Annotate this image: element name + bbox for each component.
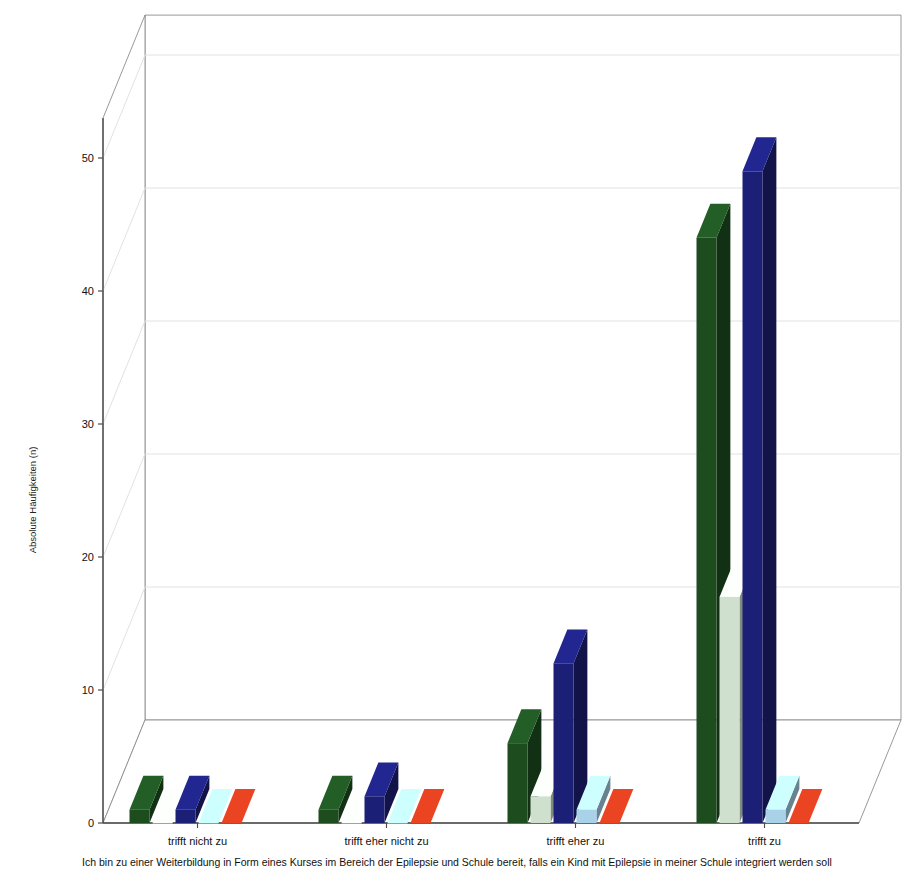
chart-bar-front: [789, 823, 809, 824]
chart-bar-front: [508, 743, 528, 823]
chart-left-wall: [103, 15, 145, 823]
y-axis-tick-label: 0: [88, 817, 94, 829]
chart-bar-front: [720, 597, 740, 823]
chart-bar: [743, 137, 777, 823]
chart-root: Das wäre in jeder Hinsicht spannend. Nic…: [0, 0, 915, 875]
chart-bar-side: [763, 137, 777, 823]
x-axis-category-label: trifft eher zu: [547, 835, 605, 847]
chart-bar-front: [531, 796, 551, 823]
chart-bar-front: [199, 823, 219, 824]
chart-plot-area: 01020304050Absolute Häufigkeiten (n)trif…: [0, 0, 915, 875]
chart-bar-front: [697, 238, 717, 823]
chart-bar-front: [766, 810, 786, 823]
chart-bar-front: [600, 823, 620, 824]
x-axis-category-label: trifft nicht zu: [168, 835, 227, 847]
chart-bar-front: [319, 810, 339, 823]
y-axis-tick-label: 30: [82, 418, 94, 430]
chart-bar-front: [365, 796, 385, 823]
y-axis-tick-label: 40: [82, 285, 94, 297]
chart-bar-front: [743, 171, 763, 823]
y-axis-tick-label: 10: [82, 684, 94, 696]
y-axis-tick-label: 50: [82, 152, 94, 164]
chart-bar-front: [130, 810, 150, 823]
chart-bar-front: [577, 810, 597, 823]
chart-bar-front: [153, 823, 173, 824]
chart-bar: [554, 629, 588, 823]
chart-svg: 01020304050Absolute Häufigkeiten (n)trif…: [0, 0, 915, 875]
chart-bar-front: [342, 823, 362, 824]
chart-bar-front: [411, 823, 431, 824]
chart-bar-front: [388, 823, 408, 824]
x-axis-category-label: trifft zu: [748, 835, 781, 847]
y-axis-tick-label: 20: [82, 551, 94, 563]
chart-back-wall: [145, 15, 901, 720]
chart-bar-front: [554, 663, 574, 823]
y-axis-title: Absolute Häufigkeiten (n): [27, 447, 38, 554]
x-axis-category-label: trifft eher nicht zu: [344, 835, 428, 847]
chart-caption: Ich bin zu einer Weiterbildung in Form e…: [82, 856, 832, 868]
chart-bar-front: [222, 823, 242, 824]
chart-bar-front: [176, 810, 196, 823]
